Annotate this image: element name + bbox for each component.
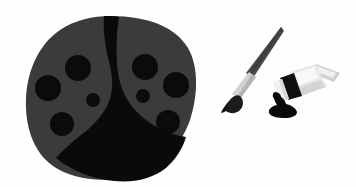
palette-spot[interactable]: [163, 72, 189, 98]
illustration-canvas: Ladybug paint palette with paintbrush an…: [0, 0, 356, 187]
palette-spot[interactable]: [35, 75, 61, 101]
palette-spot[interactable]: [86, 93, 100, 107]
palette-spot[interactable]: [65, 55, 91, 81]
ladybug-palette[interactable]: [26, 16, 196, 181]
palette-spot[interactable]: [50, 112, 74, 136]
ladybug-head-notch: [105, 16, 119, 30]
palette-spot[interactable]: [136, 89, 150, 103]
illustration-svg: [0, 0, 356, 187]
palette-spot[interactable]: [132, 54, 158, 80]
palette-spot[interactable]: [156, 110, 180, 134]
